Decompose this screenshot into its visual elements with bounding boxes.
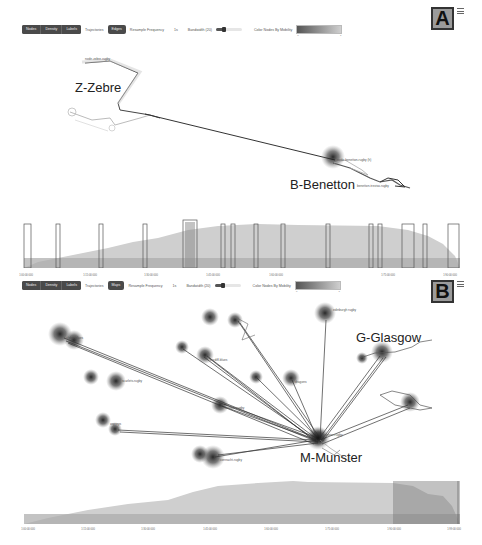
timeline-tick: 1:75:00:000 [381,274,395,277]
timeline-area-chart[interactable] [18,478,462,524]
timeline-tick: 1:60:00:000 [264,528,278,531]
mobility-color-scale: 01 [295,281,341,290]
panel-a: Nodes Density Labels Trajectories Edges … [0,0,482,278]
resample-frequency-label: Resample Frequency [130,28,164,32]
timeline-tick: 1:45:00:000 [206,274,220,277]
labels-button[interactable]: Labels [62,25,81,34]
timeline-tick: 1:30:00:000 [144,274,158,277]
node-label: benetton-treviso-rugby [357,184,389,188]
timeline-tick: 1:15:00:000 [83,274,97,277]
nodes-button[interactable]: Nodes [22,25,41,34]
timeline-tick: 1:90:00:000 [443,274,457,277]
node-label: munster-rugby [322,433,343,437]
node-label: ospreys [110,422,121,426]
timeline-histogram[interactable]: 1:00:00:000 1:15:00:000 1:30:00:000 1:45… [18,478,462,528]
bandwidth-label: Bandwidth (20) [188,28,212,32]
region-label-munster: M-Munster [300,450,362,465]
nodes-button[interactable]: Nodes [22,281,41,290]
region-label-zebre: Z-Zebre [75,80,121,95]
view-button-group: Nodes Density Labels [22,25,81,34]
labels-button[interactable]: Labels [62,281,81,290]
bandwidth-label: Bandwidth (20) [186,284,210,288]
gradient-min: 0 [297,34,298,37]
node-label: leinster-rugby [225,406,244,410]
node-label: edinburgh rugby [333,308,356,312]
timeline-tick: 1:99:00:000 [447,528,461,531]
node-label: ulster_blues [66,336,83,340]
slider-knob[interactable] [221,283,225,288]
timeline-tick: 1:45:00:000 [203,528,217,531]
toolbar: Nodes Density Labels Trajectories Maps R… [22,280,341,291]
timeline-tick: 1:15:00:000 [81,528,95,531]
timeline-tick: 1:00:00:000 [21,528,35,531]
panel-badge: A [431,7,454,30]
timeline-tick: 1:00:00:000 [19,274,33,277]
bandwidth-slider[interactable] [215,284,241,287]
node-label: dragons [295,380,307,384]
resample-frequency-value[interactable]: 1s [173,284,177,288]
region-label-glasgow: G-Glasgow [356,330,421,345]
timeline-area-chart[interactable] [18,218,462,268]
resample-frequency-value[interactable]: 1s [174,28,178,32]
resample-frequency-label: Resample Frequency [128,284,162,288]
node-label: node-benetton-rugby (h) [337,158,371,162]
mobility-color-scale: 01 [296,25,342,34]
timeline-tick: 1:90:00:000 [387,528,401,531]
region-label-benetton: B-Benetton [290,177,355,192]
trajectories-label: Trajectories [85,284,104,288]
gradient-max: 1 [340,34,341,37]
timeline-tick: 1:60:00:000 [269,274,283,277]
density-button[interactable]: Density [41,281,62,290]
panel-b: Nodes Density Labels Trajectories Maps R… [0,278,482,545]
timeline-tick: 1:30:00:000 [141,528,155,531]
density-button[interactable]: Density [41,25,62,34]
maps-button[interactable]: Maps [108,281,125,290]
color-nodes-label: Color Nodes By Mobility [254,28,292,32]
timeline-histogram[interactable]: 1:00:00:000 1:15:00:000 1:30:00:000 1:45… [18,218,462,274]
edges-button[interactable]: Edges [108,25,126,34]
node-label: node-zebre-rugby [85,57,110,61]
trajectory-map[interactable] [0,40,482,210]
timeline-tick: 1:75:00:000 [325,528,339,531]
slider-knob[interactable] [222,27,226,32]
color-nodes-label: Color Nodes By Mobility [253,284,291,288]
node-label: connacht-rugby [220,458,242,462]
view-button-group: Nodes Density Labels [22,281,81,290]
toolbar: Nodes Density Labels Trajectories Edges … [22,24,342,35]
hamburger-menu-icon[interactable] [457,281,464,287]
node-label: cardiff-blues [210,358,227,362]
trajectories-label: Trajectories [85,28,104,32]
hamburger-menu-icon[interactable] [457,8,464,14]
bandwidth-slider[interactable] [216,28,242,31]
timeline-selection[interactable] [393,481,460,524]
node-label: scarlets-rugby [122,379,142,383]
